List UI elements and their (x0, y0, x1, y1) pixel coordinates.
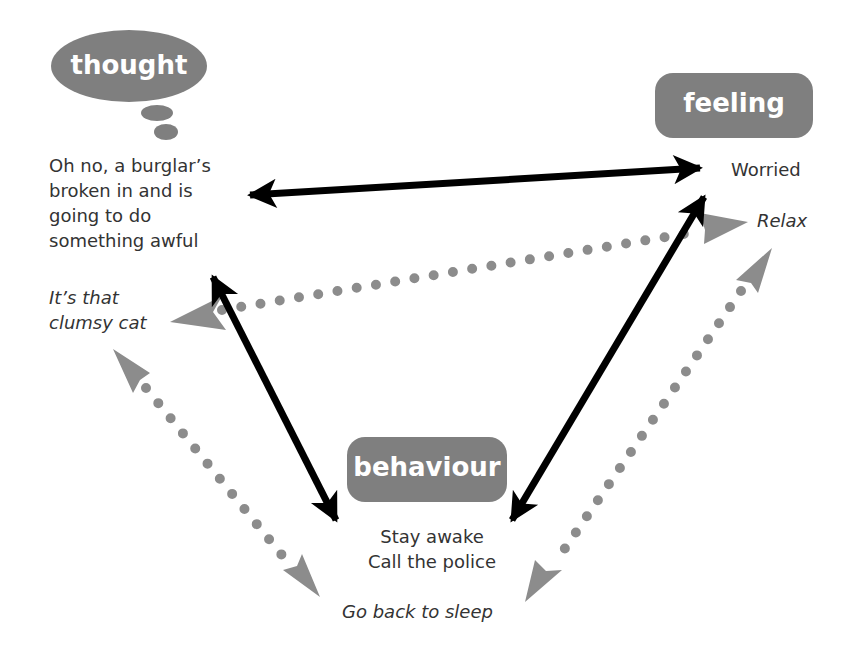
feeling-text: Worried (731, 157, 801, 182)
thought-label: thought (51, 40, 207, 90)
behaviour-alternative-text: Go back to sleep (342, 599, 493, 624)
thought-alt-line: clumsy cat (49, 310, 147, 335)
feeling-alternative-text: Relax (757, 208, 807, 233)
thought-text-line: broken in and is (49, 178, 211, 203)
solid-arrow-thought-behaviour (213, 277, 336, 520)
behaviour-text-line: Call the police (362, 549, 502, 574)
dotted-arrow-feeling-behaviour (525, 248, 772, 602)
solid-arrow-thought-feeling (250, 168, 700, 195)
feeling-alt-line: Relax (757, 208, 807, 233)
thought-bubble-tail-large (141, 105, 173, 121)
thought-alternative-text: It’s that clumsy cat (49, 285, 147, 335)
behaviour-text-line: Stay awake (362, 524, 502, 549)
thought-bubble-tail-small (154, 124, 178, 140)
thought-alt-line: It’s that (49, 285, 147, 310)
feeling-label: feeling (655, 73, 813, 133)
thought-text-line: Oh no, a burglar’s (49, 153, 211, 178)
behaviour-alt-line: Go back to sleep (342, 599, 493, 624)
dotted-arrow-thought-behaviour (113, 349, 320, 597)
thought-text-line: going to do (49, 203, 211, 228)
feeling-text-line: Worried (731, 157, 801, 182)
behaviour-text: Stay awake Call the police (362, 524, 502, 574)
thought-text: Oh no, a burglar’s broken in and is goin… (49, 153, 211, 253)
thought-text-line: something awful (49, 228, 211, 253)
behaviour-label: behaviour (347, 437, 507, 497)
